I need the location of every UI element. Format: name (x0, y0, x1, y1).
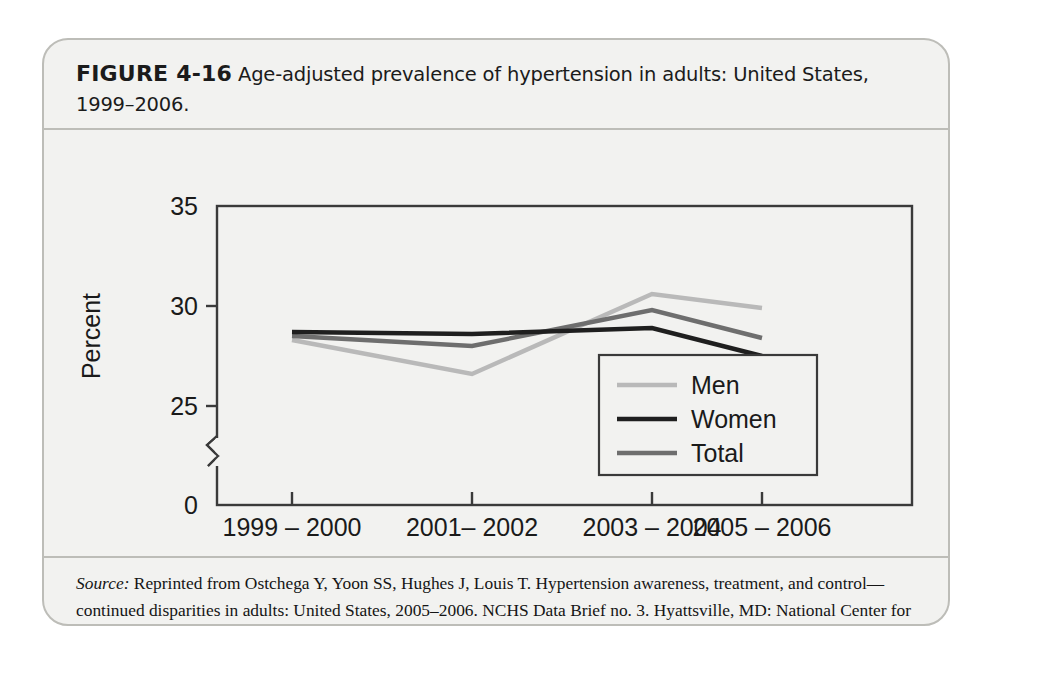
line-chart: 0253035Percent1999 – 20002001– 20022003 … (44, 130, 948, 556)
source-citation: Source: Reprinted from Ostchega Y, Yoon … (76, 570, 918, 626)
chart-area: 0253035Percent1999 – 20002001– 20022003 … (44, 130, 948, 558)
axis-break-mask (215, 438, 219, 466)
figure-card: FIGURE 4-16 Age-adjusted prevalence of h… (42, 38, 950, 626)
figure-source-footer: Source: Reprinted from Ostchega Y, Yoon … (44, 558, 948, 626)
legend-label-total: Total (691, 439, 744, 467)
y-tick-label: 25 (170, 392, 198, 420)
legend-label-men: Men (691, 371, 740, 399)
y-tick-label: 0 (184, 491, 198, 519)
figure-caption-header: FIGURE 4-16 Age-adjusted prevalence of h… (44, 40, 948, 130)
x-tick-label: 1999 – 2000 (222, 513, 361, 541)
y-axis-title: Percent (77, 293, 105, 379)
source-citation-text: Reprinted from Ostchega Y, Yoon SS, Hugh… (76, 573, 911, 626)
x-tick-label: 2005 – 2006 (692, 513, 831, 541)
source-label: Source: (76, 573, 129, 593)
x-tick-label: 2001– 2002 (406, 513, 538, 541)
legend-label-women: Women (691, 405, 777, 433)
figure-number-label: FIGURE 4-16 (76, 61, 232, 86)
y-tick-label: 30 (170, 292, 198, 320)
figure-caption: FIGURE 4-16 Age-adjusted prevalence of h… (76, 59, 914, 120)
y-tick-label: 35 (170, 192, 198, 220)
page-root: FIGURE 4-16 Age-adjusted prevalence of h… (0, 0, 1038, 673)
